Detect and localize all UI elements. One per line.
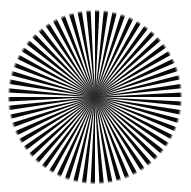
figure-canvas: Radial starburst disc High-frequency alt…	[0, 0, 191, 192]
disc-edge-feather	[8, 10, 183, 185]
starburst-disc: Radial starburst disc High-frequency alt…	[0, 0, 191, 192]
